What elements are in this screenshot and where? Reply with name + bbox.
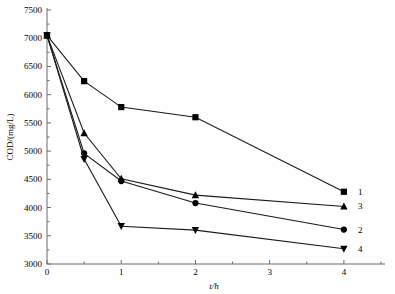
legend-label-1: 1 bbox=[358, 187, 363, 197]
x-axis-tick-label: 2 bbox=[193, 267, 198, 277]
legend-label-4: 4 bbox=[358, 244, 363, 254]
data-point-marker bbox=[80, 156, 87, 163]
legend-label-3: 3 bbox=[358, 201, 363, 211]
data-point-marker bbox=[341, 226, 347, 232]
chart-container: 3000350040004500500055006000650070007500… bbox=[0, 0, 395, 294]
data-point-marker bbox=[340, 246, 347, 253]
y-axis-tick-label: 3000 bbox=[24, 259, 43, 269]
cod-vs-time-line-chart: 3000350040004500500055006000650070007500… bbox=[0, 0, 395, 294]
series-3 bbox=[43, 32, 347, 210]
y-axis-tick-label: 6500 bbox=[24, 61, 43, 71]
y-axis-tick-label: 7500 bbox=[24, 5, 43, 15]
data-point-marker bbox=[341, 189, 347, 195]
data-point-marker bbox=[192, 200, 198, 206]
x-axis-tick-label: 4 bbox=[342, 267, 347, 277]
y-axis-tick-label: 6000 bbox=[24, 90, 43, 100]
series-line bbox=[47, 35, 344, 191]
y-axis-tick-label: 5000 bbox=[24, 146, 43, 156]
y-axis-tick-label: 5500 bbox=[24, 118, 43, 128]
data-point-marker bbox=[80, 129, 87, 136]
x-axis-tick-label: 0 bbox=[45, 267, 50, 277]
data-point-marker bbox=[81, 78, 87, 84]
series-2 bbox=[44, 32, 347, 232]
data-point-marker bbox=[192, 114, 198, 120]
series-1 bbox=[44, 32, 347, 195]
y-axis-tick-label: 4000 bbox=[24, 203, 43, 213]
legend-label-2: 2 bbox=[358, 225, 363, 235]
x-axis-tick-label: 1 bbox=[119, 267, 124, 277]
series-line bbox=[47, 35, 344, 206]
data-point-marker bbox=[118, 178, 124, 184]
x-axis-tick-label: 3 bbox=[267, 267, 272, 277]
data-point-marker bbox=[118, 104, 124, 110]
y-axis-title: COD/(mg/L) bbox=[5, 114, 15, 161]
y-axis-tick-label: 7000 bbox=[24, 33, 43, 43]
x-axis-title: t/h bbox=[209, 281, 219, 291]
y-axis-tick-label: 3500 bbox=[24, 231, 43, 241]
series-4 bbox=[43, 32, 347, 252]
y-axis-tick-label: 4500 bbox=[24, 174, 43, 184]
